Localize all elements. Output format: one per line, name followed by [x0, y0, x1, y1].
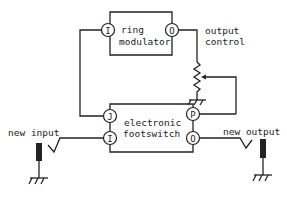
- svg-text:O: O: [190, 134, 195, 144]
- footswitch-label-line1: electronic: [124, 117, 181, 128]
- circuit-diagram: ring modulator I O output control: [0, 0, 287, 204]
- new-input-label: new input: [8, 127, 59, 138]
- ground-icon: [29, 178, 48, 184]
- resistor-zigzag: [194, 62, 200, 100]
- ring-modulator-input-pin: I: [102, 24, 115, 37]
- new-output-jack: new output: [200, 126, 281, 181]
- svg-text:O: O: [169, 26, 174, 36]
- input-tip-contact: [48, 138, 104, 152]
- footswitch-pin-i: I: [104, 132, 117, 145]
- ground-icon: [253, 175, 272, 181]
- input-jack-icon: [36, 143, 42, 161]
- new-output-label: new output: [223, 126, 280, 137]
- footswitch-pin-j: J: [104, 110, 117, 123]
- footswitch-label-line2: footswitch: [123, 128, 180, 139]
- output-jack-icon: [260, 139, 266, 158]
- ring-modulator-block: ring modulator I O: [102, 12, 179, 55]
- electronic-footswitch-block: electronic footswitch J I P O: [104, 104, 200, 152]
- footswitch-pin-p: P: [187, 108, 200, 121]
- output-tip-contact: [200, 138, 253, 148]
- ring-modulator-label-line2: modulator: [119, 36, 171, 47]
- svg-text:J: J: [107, 112, 112, 122]
- output-control-label-line2: control: [205, 36, 245, 47]
- svg-text:I: I: [105, 26, 110, 36]
- wiper-arrow-icon: [201, 75, 206, 80]
- footswitch-pin-o: O: [187, 132, 200, 145]
- new-input-jack: new input: [8, 127, 104, 184]
- svg-text:P: P: [190, 110, 196, 120]
- wire-j-to-ring-in: [80, 30, 103, 116]
- output-control-label-line1: output: [205, 25, 239, 36]
- svg-text:I: I: [107, 134, 112, 144]
- ring-modulator-output-pin: O: [166, 24, 179, 37]
- ring-modulator-label-line1: ring: [121, 24, 144, 35]
- wire-ring-out-to-pot: [179, 30, 198, 62]
